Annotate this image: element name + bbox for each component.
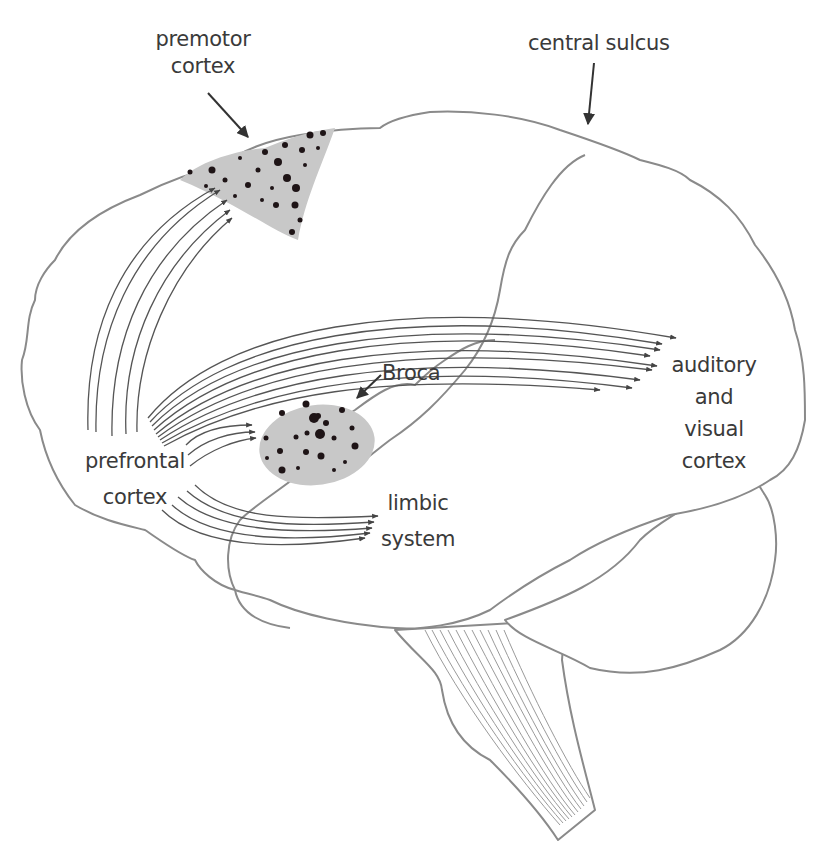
broca-text: Broca <box>382 361 440 385</box>
auditory-visual-cortex-label: auditory and visual cortex <box>664 349 764 477</box>
auditory-label-line4: cortex <box>664 445 764 477</box>
premotor-label-line2: cortex <box>148 53 258 80</box>
auditory-label-line1: auditory <box>664 349 764 381</box>
limbic-system-label: limbic system <box>378 485 458 557</box>
auditory-label-line3: visual <box>664 413 764 445</box>
central-sulcus-text: central sulcus <box>528 31 670 55</box>
central-sulcus-pointer-arrow <box>588 63 594 124</box>
auditory-label-line2: and <box>664 381 764 413</box>
broca-label: Broca <box>382 360 452 387</box>
premotor-cortex-label: premotor cortex <box>148 26 258 80</box>
premotor-pointer-arrow <box>208 93 248 137</box>
limbic-label-line2: system <box>378 521 458 557</box>
premotor-label-line1: premotor <box>148 26 258 53</box>
prefrontal-cortex-label: prefrontal cortex <box>80 443 190 515</box>
prefrontal-label-line1: prefrontal <box>80 443 190 479</box>
prefrontal-label-line2: cortex <box>80 479 190 515</box>
limbic-label-line1: limbic <box>378 485 458 521</box>
central-sulcus-label: central sulcus <box>528 30 668 57</box>
